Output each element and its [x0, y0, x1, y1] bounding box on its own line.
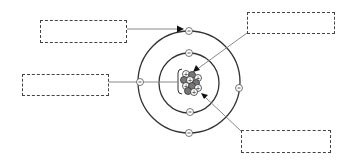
label-box-proton[interactable] [247, 12, 335, 34]
arrowhead-proton [193, 65, 200, 72]
leader-line-proton [196, 33, 247, 70]
label-box-neutron[interactable] [241, 130, 331, 153]
svg-text:+: + [195, 74, 200, 81]
label-box-outer-electron[interactable] [40, 20, 127, 43]
label-box-nucleus[interactable] [22, 74, 109, 96]
svg-text:+: + [191, 88, 196, 95]
svg-text:+: + [183, 82, 188, 89]
arrowhead-neutron [201, 93, 208, 99]
